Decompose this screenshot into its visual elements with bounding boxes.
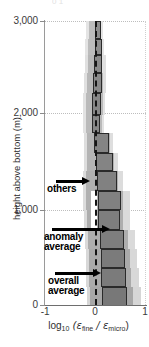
annotation-others-label: others xyxy=(47,184,76,194)
zero-reference-line xyxy=(95,21,97,305)
band-dark xyxy=(102,287,127,305)
annotation-others-text: others xyxy=(47,183,76,194)
y-axis-title: height above bottom (m) xyxy=(11,74,22,264)
x-axis-title-mid: / ε xyxy=(93,320,108,331)
x-tick-label-1: 1 xyxy=(135,306,149,317)
annotation-anomaly-line2: average xyxy=(44,242,83,252)
x-axis-title-log: log xyxy=(48,320,61,331)
band-dark xyxy=(96,153,113,171)
clipped-top-text: 0 1 xyxy=(52,0,112,5)
annotation-anomaly-label: anomaly average xyxy=(44,232,83,251)
x-tick-label-minus1: -1 xyxy=(35,306,55,317)
annotation-overall-label: overall average xyxy=(48,276,84,295)
arrow-head xyxy=(82,177,90,185)
arrow-shaft xyxy=(56,180,82,183)
arrow-shaft xyxy=(55,272,93,275)
annotation-overall-line2: average xyxy=(48,286,84,296)
x-axis-title-body: (ε xyxy=(69,320,82,331)
x-axis-title-fine: fine xyxy=(82,325,93,332)
x-axis-title: log10 (εfine / εmicro) xyxy=(28,320,149,332)
x-tick-label-0: 0 xyxy=(85,306,105,317)
band-dark xyxy=(97,171,117,191)
x-axis-title-micro: micro xyxy=(108,325,125,332)
figure-container: 0 1 xyxy=(0,0,149,347)
band-dark xyxy=(101,268,126,287)
y-tick-label-3000: 3,000 xyxy=(13,15,38,26)
x-axis-title-close: ) xyxy=(125,320,128,331)
arrow-head xyxy=(102,225,110,233)
y-axis-spine xyxy=(44,20,45,306)
arrow-shaft xyxy=(52,228,102,231)
gridline-x-1 xyxy=(145,21,146,305)
y-tick-mark-3000 xyxy=(40,21,45,22)
band-dark xyxy=(98,191,121,210)
arrow-head xyxy=(93,269,101,277)
y-tick-mark-1000 xyxy=(40,210,45,211)
y-tick-mark-2000 xyxy=(40,113,45,114)
band-dark xyxy=(101,249,125,268)
plot-area xyxy=(44,21,146,305)
